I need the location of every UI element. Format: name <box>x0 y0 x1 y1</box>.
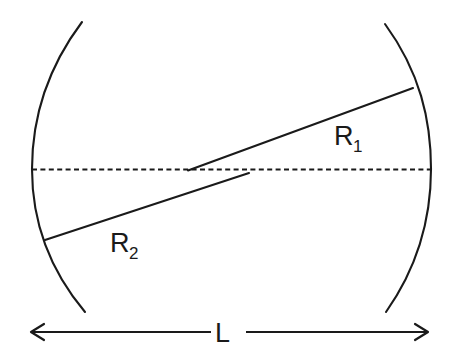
r1-radius-line <box>188 88 413 171</box>
cavity-length-label: L <box>215 318 230 348</box>
diagram-canvas: R 1 R 2 L <box>0 0 451 356</box>
optical-cavity-diagram: R 1 R 2 L <box>0 0 451 356</box>
left-mirror-arc <box>32 22 85 312</box>
r1-label: R <box>334 121 354 151</box>
r2-label: R <box>110 228 130 258</box>
right-mirror-arc <box>385 24 431 312</box>
r2-label-subscript: 2 <box>129 244 138 263</box>
r1-label-subscript: 1 <box>353 137 362 156</box>
r2-radius-line <box>45 173 249 240</box>
